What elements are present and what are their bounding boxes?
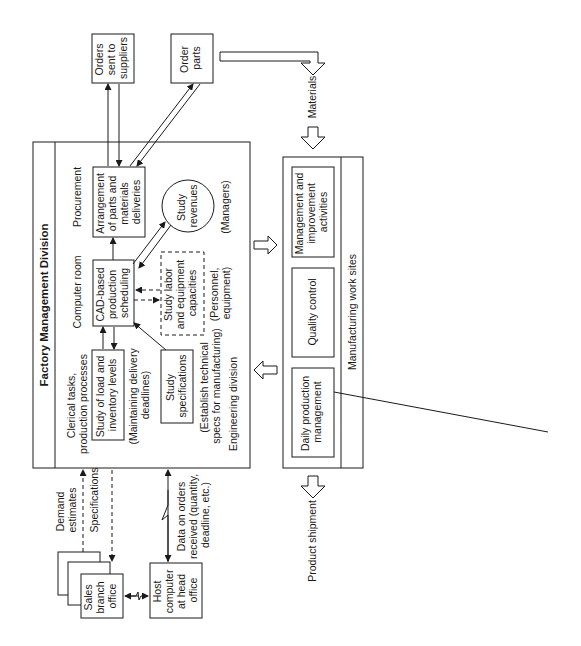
svg-text:Order parts: Order parts: [178, 43, 202, 73]
note-managers: (Managers): [219, 180, 231, 234]
study-revenues-circle: Study revenues: [162, 180, 214, 232]
load-inventory-box: Study of load and inventory levels: [92, 350, 124, 440]
note-personnel: (Personnel, equipment): [208, 265, 232, 322]
materials-flow-arrow: [220, 52, 325, 75]
mgmt-improvement-box: Management and improvement activities: [292, 167, 334, 257]
orders-sent-box: Orders sent to suppliers: [92, 34, 134, 83]
callout-line: [334, 392, 548, 432]
factory-management-diagram: Factory Management Division Procurement …: [0, 0, 581, 646]
sales-branch-office-stack: Sales branch office: [58, 552, 123, 618]
section-engineering: Engineering division: [227, 357, 239, 451]
manufacturing-work-sites: Manufacturing work sites Management and …: [283, 157, 363, 468]
svg-text:Quality control: Quality control: [306, 278, 318, 345]
arrangement-box: Arrangement of parts and materials deliv…: [93, 167, 145, 237]
materials-down-arrow: [301, 127, 325, 149]
cad-scheduling-box: CAD-based production scheduling: [93, 260, 134, 326]
note-establish: (Establish technical specs for manufactu…: [198, 328, 222, 444]
factory-management-division: Factory Management Division Procurement …: [33, 142, 250, 468]
data-on-orders-label: Data on orders received (quantity, deadl…: [175, 471, 211, 559]
svg-text:Study of load and inve: Study of load and inventory levels: [94, 353, 118, 438]
materials-label: Materials: [306, 76, 318, 119]
host-computer-box: Host computer at head office: [150, 563, 202, 618]
arrow-division-to-manufacturing: [254, 236, 277, 254]
svg-text:Sales branch offic: Sales branch office: [82, 578, 118, 613]
daily-production-box: Daily production management: [292, 368, 334, 457]
order-parts-box: Order parts: [171, 34, 213, 83]
specifications-label: Specifications: [88, 468, 100, 533]
svg-text:Orders sent to sup: Orders sent to suppliers: [93, 37, 129, 79]
product-shipment-label: Product shipment: [306, 500, 318, 582]
manufacturing-title: Manufacturing work sites: [346, 254, 358, 370]
quality-control-box: Quality control: [292, 268, 334, 357]
section-procurement: Procurement: [71, 167, 83, 227]
study-specifications-box: Study specifications: [161, 350, 193, 423]
demand-estimates-label: Demand estimates: [54, 488, 78, 533]
link-host-to-division: [162, 470, 168, 562]
svg-text:CAD-based production: CAD-based production scheduling: [94, 264, 130, 321]
svg-text:Daily production manag: Daily production management: [299, 373, 323, 451]
arrow-manufacturing-to-division: [254, 361, 277, 379]
product-shipment-arrow: [301, 476, 325, 498]
division-title: Factory Management Division: [38, 224, 50, 387]
section-computer-room: Computer room: [71, 255, 83, 328]
